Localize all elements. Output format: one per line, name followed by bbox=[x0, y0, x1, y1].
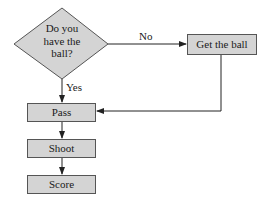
decision-line-2: have the bbox=[30, 35, 94, 48]
decision-line-3: ball? bbox=[30, 47, 94, 60]
decision-line-1: Do you bbox=[30, 22, 94, 35]
score-node: Score bbox=[27, 175, 96, 194]
pass-node: Pass bbox=[27, 103, 96, 122]
no-label: No bbox=[139, 31, 152, 42]
decision-text: Do you have the ball? bbox=[30, 22, 94, 60]
shoot-node: Shoot bbox=[27, 139, 96, 158]
get-ball-node: Get the ball bbox=[187, 34, 257, 55]
yes-label: Yes bbox=[66, 82, 82, 93]
return-arrow bbox=[97, 54, 221, 111]
